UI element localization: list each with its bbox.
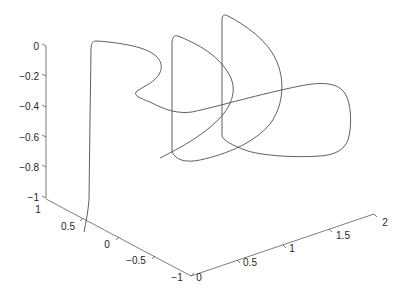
y-tick-4: −1 (171, 272, 183, 283)
x-tick-0: 0 (196, 272, 202, 283)
x-tick-4: 2 (382, 217, 388, 228)
z-tick-1: −0.2 (19, 71, 39, 82)
x-tick-3: 1.5 (336, 230, 350, 241)
z-tick-4: −0.8 (19, 162, 39, 173)
y-tick-0: 1 (35, 204, 41, 215)
y-axis: 1 0.5 0 −0.5 −1 (35, 199, 194, 283)
z-tick-2: −0.4 (19, 101, 39, 112)
curve-segment-left (84, 15, 351, 232)
y-tick-3: −0.5 (126, 255, 146, 266)
y-tick-2: 0 (104, 239, 110, 250)
curve-series (84, 15, 351, 232)
x-axis: 0 0.5 1 1.5 2 (191, 214, 388, 283)
x-tick-2: 1 (289, 243, 295, 254)
z-tick-3: −0.6 (19, 132, 39, 143)
3d-line-plot: 0 −0.2 −0.4 −0.6 −0.8 −1 1 0.5 0 −0.5 −1… (0, 0, 407, 295)
z-tick-0: 0 (33, 41, 39, 52)
z-axis: 0 −0.2 −0.4 −0.6 −0.8 −1 (19, 41, 46, 203)
y-tick-1: 0.5 (61, 221, 75, 232)
z-tick-5: −1 (28, 192, 40, 203)
x-tick-1: 0.5 (243, 257, 257, 268)
